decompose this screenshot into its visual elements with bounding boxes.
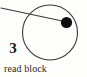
figure-caption: read block xyxy=(4,62,87,75)
read-block-figure: 3 read block xyxy=(0,0,87,77)
disk-block-marker-icon xyxy=(61,17,72,28)
step-number: 3 xyxy=(5,40,21,57)
disk-platter-icon xyxy=(23,5,78,60)
